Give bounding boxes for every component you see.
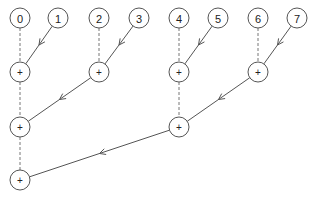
- input-node-7: 7: [287, 8, 307, 28]
- edges-layer: [20, 26, 291, 177]
- nodes-layer: 01234567+++++++: [10, 8, 307, 190]
- reduction-tree-diagram: 01234567+++++++: [0, 0, 314, 198]
- arrowhead-icon: [219, 94, 226, 100]
- node-label: 3: [136, 13, 142, 25]
- node-label: +: [96, 67, 102, 78]
- node-label: +: [17, 122, 23, 133]
- node-label: +: [176, 122, 182, 133]
- input-node-1: 1: [48, 8, 68, 28]
- node-label: 2: [96, 13, 102, 25]
- node-label: +: [255, 67, 261, 78]
- plus-node: +: [10, 117, 30, 137]
- plus-node: +: [248, 62, 268, 82]
- arrowhead-icon: [60, 94, 67, 100]
- input-node-3: 3: [129, 8, 149, 28]
- input-node-2: 2: [89, 8, 109, 28]
- input-node-6: 6: [248, 8, 268, 28]
- node-label: 1: [55, 13, 61, 25]
- node-label: 4: [176, 13, 182, 25]
- input-node-0: 0: [10, 8, 30, 28]
- plus-node: +: [169, 117, 189, 137]
- node-label: +: [17, 67, 23, 78]
- node-label: 6: [255, 13, 261, 25]
- node-label: 0: [17, 13, 23, 25]
- plus-node: +: [169, 62, 189, 82]
- plus-node: +: [89, 62, 109, 82]
- arrowhead-icon: [39, 38, 45, 45]
- node-label: +: [17, 175, 23, 186]
- input-node-5: 5: [208, 8, 228, 28]
- node-label: +: [176, 67, 182, 78]
- input-node-4: 4: [169, 8, 189, 28]
- plus-node: +: [10, 62, 30, 82]
- node-label: 7: [294, 13, 300, 25]
- node-label: 5: [215, 13, 221, 25]
- plus-node: +: [10, 170, 30, 190]
